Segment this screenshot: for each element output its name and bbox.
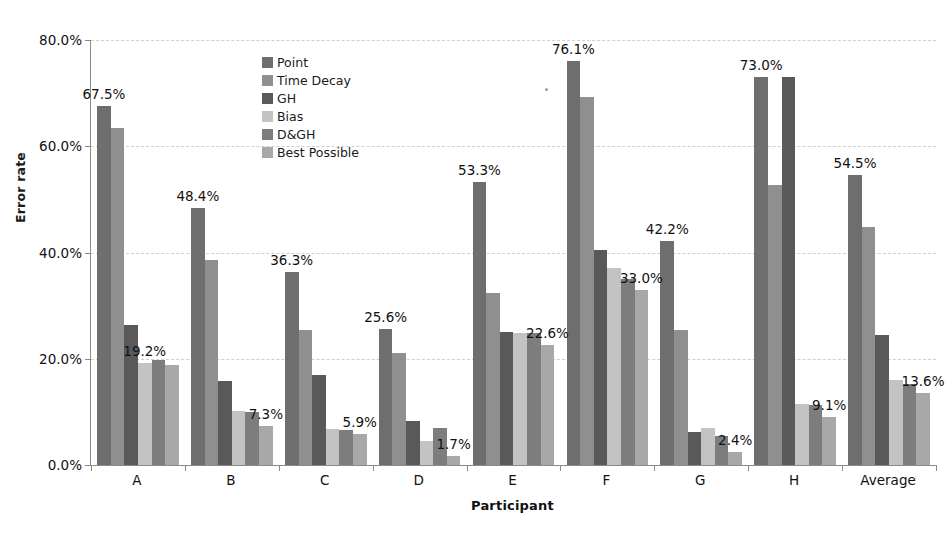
bar[interactable] <box>232 411 246 465</box>
bar[interactable] <box>916 393 930 465</box>
bar[interactable] <box>580 97 594 465</box>
bar[interactable] <box>607 268 621 465</box>
bar[interactable] <box>822 417 836 465</box>
bar-groups <box>91 40 936 465</box>
x-axis-tick-mark <box>748 465 749 471</box>
bar[interactable] <box>527 333 541 465</box>
bar-group <box>97 40 179 465</box>
bar-group <box>567 40 649 465</box>
bar[interactable] <box>754 77 768 465</box>
x-axis-tick-label: E <box>508 472 517 488</box>
bar[interactable] <box>500 332 514 465</box>
bar[interactable] <box>406 421 420 465</box>
bar[interactable] <box>768 185 782 465</box>
legend-item[interactable]: GH <box>262 91 359 106</box>
data-label: 5.9% <box>343 414 377 430</box>
x-axis-tick-label: D <box>413 472 423 488</box>
y-axis-tick-label: 60.0% <box>16 138 82 154</box>
legend-swatch-icon <box>262 111 273 122</box>
bar[interactable] <box>635 290 649 465</box>
bar[interactable] <box>688 432 702 465</box>
data-label: 42.2% <box>646 221 689 237</box>
bar[interactable] <box>889 380 903 465</box>
data-label: 53.3% <box>458 162 501 178</box>
legend-item[interactable]: Point <box>262 55 359 70</box>
legend-item-label: D&GH <box>277 127 315 142</box>
bar[interactable] <box>191 208 205 465</box>
bar[interactable] <box>875 335 889 465</box>
data-label: 2.4% <box>718 432 752 448</box>
bar[interactable] <box>353 434 367 465</box>
x-axis-tick-label: G <box>695 472 705 488</box>
bar[interactable] <box>567 61 581 465</box>
bar[interactable] <box>218 381 232 465</box>
data-label: 54.5% <box>834 155 877 171</box>
bar-group <box>191 40 273 465</box>
legend-item[interactable]: Time Decay <box>262 73 359 88</box>
bar[interactable] <box>782 77 796 465</box>
y-axis-tick-labels: 0.0%20.0%40.0%60.0%80.0% <box>0 0 82 542</box>
bar-group <box>660 40 742 465</box>
bar-group <box>848 40 930 465</box>
legend-item-label: Best Possible <box>277 145 359 160</box>
data-label: 67.5% <box>82 86 125 102</box>
bar[interactable] <box>903 384 917 465</box>
bar[interactable] <box>795 404 809 465</box>
bar[interactable] <box>259 426 273 465</box>
legend-swatch-icon <box>262 57 273 68</box>
bar[interactable] <box>138 363 152 465</box>
x-axis-tick-mark <box>279 465 280 471</box>
x-axis-tick-mark <box>842 465 843 471</box>
bar[interactable] <box>513 333 527 465</box>
bar[interactable] <box>379 329 393 465</box>
x-axis-tick-label: F <box>602 472 610 488</box>
data-label: 48.4% <box>176 188 219 204</box>
x-axis-tick-label: C <box>320 472 329 488</box>
plot-area: 67.5%19.2%48.4%7.3%36.3%5.9%25.6%1.7%53.… <box>90 40 936 466</box>
bar[interactable] <box>97 106 111 465</box>
legend-item[interactable]: D&GH <box>262 127 359 142</box>
bar[interactable] <box>621 279 635 465</box>
bar[interactable] <box>420 441 434 465</box>
legend-item-label: GH <box>277 91 296 106</box>
bar[interactable] <box>285 272 299 465</box>
x-axis-tick-mark <box>654 465 655 471</box>
x-axis-tick-mark <box>185 465 186 471</box>
bar[interactable] <box>594 250 608 465</box>
data-label: 76.1% <box>552 41 595 57</box>
x-axis-tick-mark <box>91 465 92 471</box>
data-label: 33.0% <box>620 270 663 286</box>
bar[interactable] <box>473 182 487 465</box>
bar[interactable] <box>447 456 461 465</box>
bar[interactable] <box>326 429 340 465</box>
data-label: 13.6% <box>902 373 945 389</box>
bar[interactable] <box>205 260 219 465</box>
bar[interactable] <box>728 452 742 465</box>
legend-item[interactable]: Bias <box>262 109 359 124</box>
legend-item-label: Bias <box>277 109 303 124</box>
data-label: 36.3% <box>270 252 313 268</box>
bar[interactable] <box>392 353 406 465</box>
bar[interactable] <box>312 375 326 465</box>
bar[interactable] <box>848 175 862 465</box>
bar[interactable] <box>701 428 715 465</box>
data-label: 73.0% <box>740 57 783 73</box>
bar[interactable] <box>152 360 166 465</box>
bar[interactable] <box>809 405 823 465</box>
bar[interactable] <box>862 227 876 465</box>
bar[interactable] <box>165 365 179 465</box>
bar[interactable] <box>299 330 313 465</box>
bar[interactable] <box>111 128 125 465</box>
legend-item[interactable]: Best Possible <box>262 145 359 160</box>
legend-swatch-icon <box>262 93 273 104</box>
scan-artifact-speck <box>545 88 548 91</box>
bar[interactable] <box>339 430 353 465</box>
bar-group <box>473 40 555 465</box>
bar[interactable] <box>486 293 500 465</box>
bar[interactable] <box>674 330 688 465</box>
x-axis-tick-label: A <box>132 472 141 488</box>
legend-swatch-icon <box>262 147 273 158</box>
bar[interactable] <box>541 345 555 465</box>
x-axis-tick-label: H <box>789 472 799 488</box>
data-label: 9.1% <box>812 397 846 413</box>
